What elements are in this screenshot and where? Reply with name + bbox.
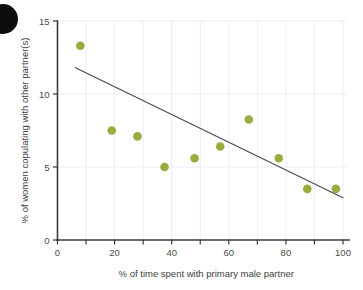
scatter-plot-svg: 020406080100 051015 % of time spent with… — [0, 0, 363, 290]
x-tick-label: 40 — [166, 247, 177, 258]
y-tick-label: 5 — [44, 162, 49, 173]
data-point — [216, 142, 225, 151]
x-tick-label: 0 — [55, 247, 60, 258]
y-tick-label: 0 — [44, 235, 49, 246]
data-point — [303, 185, 312, 194]
x-axis-tick-labels: 020406080100 — [55, 247, 351, 258]
x-axis-label: % of time spent with primary male partne… — [119, 268, 294, 279]
data-point — [76, 42, 85, 51]
x-tick-label: 60 — [224, 247, 235, 258]
data-point-group — [76, 42, 340, 194]
data-point — [332, 185, 341, 194]
y-tick-label: 10 — [39, 89, 50, 100]
data-point — [274, 154, 283, 163]
y-axis-label: % of women copulating with other partner… — [19, 38, 30, 224]
x-tick-label: 20 — [109, 247, 120, 258]
x-tick-label: 100 — [335, 247, 351, 258]
data-point — [107, 126, 116, 135]
y-tick-label: 15 — [39, 16, 50, 27]
trend-line — [75, 68, 343, 198]
data-point — [160, 163, 169, 172]
data-point — [244, 115, 253, 124]
data-point — [190, 154, 199, 163]
x-tick-label: 80 — [281, 247, 292, 258]
data-point — [133, 132, 142, 141]
y-axis-tick-labels: 051015 — [39, 16, 50, 246]
gridlines — [58, 21, 348, 240]
chart-figure: 020406080100 051015 % of time spent with… — [0, 0, 363, 290]
